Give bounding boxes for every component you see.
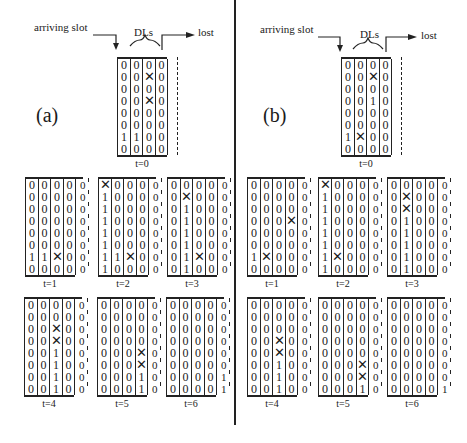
dl-grid: 000000000✕111111000000✕00000000000000000 xyxy=(167,177,217,277)
slot-cell: 1 xyxy=(357,383,369,395)
slot-cell: 0 xyxy=(426,383,438,395)
time-label: t=2 xyxy=(318,278,368,289)
slot-cell: 0 xyxy=(167,383,179,395)
slot-cell: 0 xyxy=(51,263,63,275)
slot-cell: 0 xyxy=(98,383,110,395)
lost-tick xyxy=(381,190,382,194)
slot-cell: 0 xyxy=(286,263,298,275)
lost-tick xyxy=(450,250,451,254)
lost-tick xyxy=(161,238,162,242)
dl-grid: ✕1111111000000✕0000000000000000000000000 xyxy=(318,177,368,277)
lost-tick xyxy=(160,358,161,362)
lost-tick xyxy=(381,262,382,266)
arrow-arriving-icon xyxy=(0,0,467,60)
slot-cell: 0 xyxy=(388,263,400,275)
lost-tick xyxy=(88,238,89,242)
lost-tick xyxy=(381,382,382,386)
slot-cell: 0 xyxy=(137,263,149,275)
time-label: t=0 xyxy=(117,158,167,169)
lost-tick xyxy=(310,370,311,374)
lost-tick xyxy=(160,322,161,326)
lost-tick xyxy=(310,214,311,218)
dl-grid: 000000000✕✕11111000000000000000000000000 xyxy=(387,177,437,277)
slot-cell: 0 xyxy=(124,263,136,275)
slot-cell: 0 xyxy=(332,263,344,275)
lost-tick xyxy=(161,250,162,254)
slot-cell: 0 xyxy=(64,263,76,275)
slot-cell: 0 xyxy=(367,143,379,155)
lost-tick xyxy=(230,262,231,266)
lost-tick xyxy=(450,322,451,326)
slot-cell: 0 xyxy=(344,383,356,395)
time-label: t=4 xyxy=(247,398,297,409)
lost-tick xyxy=(230,214,231,218)
lost-tick xyxy=(381,334,382,338)
lost-tick xyxy=(381,322,382,326)
lost-tick xyxy=(450,346,451,350)
slot-cell: 0 xyxy=(123,383,135,395)
slot-cell: 0 xyxy=(192,383,204,395)
slot-cell: 0 xyxy=(401,383,413,395)
slot-cell: 0 xyxy=(380,143,392,155)
slot-cell: 0 xyxy=(180,383,192,395)
slot-cell: 1 xyxy=(401,263,413,275)
slot-cell: 0 xyxy=(261,383,273,395)
lost-tick xyxy=(160,298,161,302)
lost-tick xyxy=(88,250,89,254)
lost-tick xyxy=(381,358,382,362)
slot-cell: 0 xyxy=(413,263,425,275)
lost-tick xyxy=(88,226,89,230)
lost-tick xyxy=(310,250,311,254)
slot-cell: 0 xyxy=(63,383,75,395)
dl-grid: 00000000000000000000000000000✕✕100000000 xyxy=(318,297,368,397)
lost-tick xyxy=(229,346,230,350)
lost-tick xyxy=(310,238,311,242)
lost-tick xyxy=(450,298,451,302)
lost-tick xyxy=(310,262,311,266)
panel-divider xyxy=(234,0,236,425)
lost-tick xyxy=(381,310,382,314)
slot-cell: 1 xyxy=(273,383,285,395)
lost-tick xyxy=(160,310,161,314)
dl-grid: 0000000000000000000000000000✕✕1100000000 xyxy=(97,297,147,397)
lost-tick xyxy=(381,238,382,242)
lost-tick xyxy=(87,334,88,338)
lost-tick xyxy=(161,202,162,206)
slot-cell: 0 xyxy=(413,383,425,395)
slot-cell: 0 xyxy=(118,143,130,155)
slot-cell: 0 xyxy=(25,383,37,395)
lost-tick xyxy=(229,358,230,362)
slot-cell: 0 xyxy=(286,383,298,395)
slot-cell: 0 xyxy=(342,143,354,155)
lost-tick xyxy=(87,346,88,350)
slot-cell: 0 xyxy=(357,263,369,275)
lost-tick xyxy=(450,178,451,182)
slot-cell: 0 xyxy=(355,143,367,155)
lost-tick xyxy=(161,214,162,218)
lost-tick xyxy=(310,322,311,326)
lost-tick xyxy=(88,202,89,206)
lost-tick xyxy=(450,334,451,338)
slot-cell: 0 xyxy=(26,263,38,275)
dl-grid: 0000000000000000000000000000000000000011 xyxy=(166,297,216,397)
time-label: t=6 xyxy=(387,398,437,409)
lost-tick xyxy=(450,310,451,314)
slot-cell: 0 xyxy=(248,263,260,275)
dl-grid: 00000010000000✕00✕01000000000000 xyxy=(341,57,391,157)
dl-grid: 0000001000000010000000✕00000000000000000 xyxy=(25,177,75,277)
lost-tick xyxy=(310,190,311,194)
lost-tick xyxy=(310,226,311,230)
slot-cell: 0 xyxy=(111,383,123,395)
slot-cell: 1 xyxy=(181,263,193,275)
lost-tick xyxy=(381,214,382,218)
slot-cell: 0 xyxy=(131,143,143,155)
lost-tick xyxy=(450,226,451,230)
slot-cell: 0 xyxy=(206,263,218,275)
lost-tick xyxy=(381,226,382,230)
time-label: t=3 xyxy=(167,278,217,289)
lost-tick xyxy=(310,358,311,362)
lost-tick xyxy=(381,370,382,374)
slot-cell: 1 xyxy=(99,263,111,275)
slot-cell: 0 xyxy=(388,383,400,395)
lost-tick xyxy=(381,346,382,350)
